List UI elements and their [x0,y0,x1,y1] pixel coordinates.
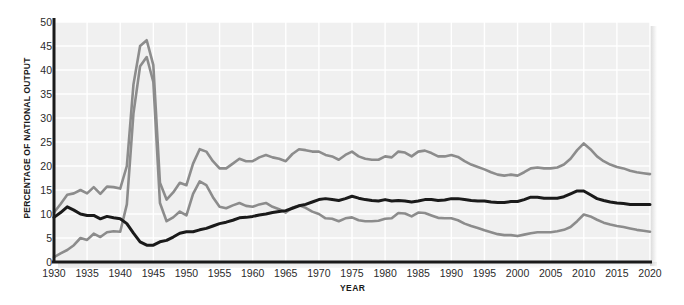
chart-container: PERCENTAGE OF NATIONAL OUTPUT YEAR 05101… [0,0,684,305]
line-chart-plot [0,0,684,305]
